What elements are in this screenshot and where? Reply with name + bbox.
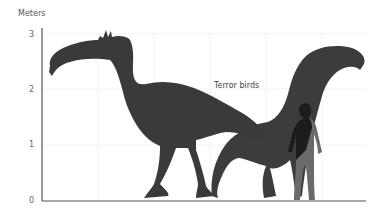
terror-birds-annotation: Terror birds [214,81,259,90]
chart-plot [0,0,385,218]
terror-bird-left-silhouette [49,30,266,198]
